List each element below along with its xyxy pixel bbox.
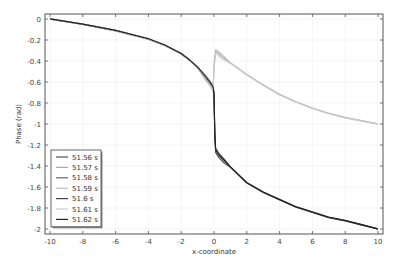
y-tick-label: -1.2	[27, 142, 41, 150]
x-tick-label: 8	[343, 238, 347, 246]
x-tick-label: -10	[44, 238, 55, 246]
legend: 51.56 s51.57 s51.58 s51.59 s51.6 s51.61 …	[51, 150, 103, 228]
legend-label: 51.57 s	[72, 164, 98, 172]
legend-label: 51.56 s	[72, 154, 98, 162]
x-tick-label: -8	[79, 238, 86, 246]
y-tick-label: -0.4	[27, 58, 41, 66]
x-axis-label: x-coordinate	[192, 248, 236, 256]
legend-label: 51.6 s	[72, 195, 94, 203]
y-tick-label: -0.6	[27, 79, 41, 87]
x-tick-label: 2	[245, 238, 249, 246]
x-tick-label: -2	[178, 238, 185, 246]
x-tick-label: 10	[374, 238, 383, 246]
x-tick-label: -6	[112, 238, 120, 246]
legend-label: 51.59 s	[72, 185, 98, 193]
phase-chart: -10-8-6-4-202468100-0.2-0.4-0.6-0.8-1-1.…	[0, 0, 399, 265]
y-tick-label: -0.2	[27, 37, 41, 45]
legend-label: 51.61 s	[72, 206, 98, 214]
y-tick-label: -2	[34, 226, 41, 234]
x-tick-label: 6	[310, 238, 315, 246]
y-axis-label: Phase (rad)	[15, 104, 23, 144]
legend-label: 51.62 s	[72, 216, 98, 224]
x-tick-label: -4	[145, 238, 153, 246]
y-tick-label: -1.6	[27, 184, 41, 192]
y-tick-label: -1.8	[27, 205, 41, 213]
y-tick-label: 0	[37, 16, 41, 24]
y-tick-label: -1.4	[27, 163, 41, 171]
x-tick-label: 4	[277, 238, 282, 246]
x-tick-label: 0	[212, 238, 216, 246]
y-tick-label: -1	[34, 121, 41, 129]
legend-label: 51.58 s	[72, 174, 98, 182]
y-tick-label: -0.8	[27, 100, 41, 108]
